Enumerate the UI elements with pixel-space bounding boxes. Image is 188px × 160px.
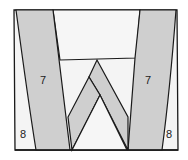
pattern-diagram — [0, 0, 188, 160]
right-strip-label: 7 — [145, 75, 151, 86]
left-edge-label: 8 — [20, 129, 26, 140]
right-edge-label: 8 — [166, 129, 172, 140]
top-panel — [53, 10, 140, 60]
left-strip-label: 7 — [40, 75, 46, 86]
